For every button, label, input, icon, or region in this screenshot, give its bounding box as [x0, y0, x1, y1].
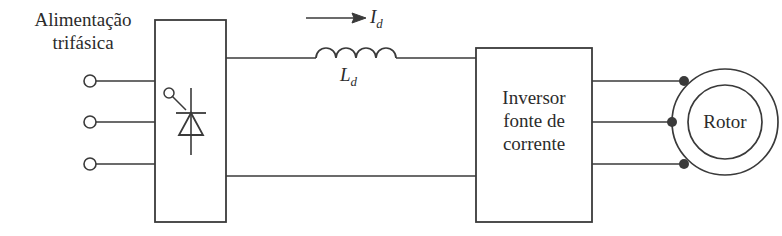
dc-current-label: Id: [370, 6, 383, 32]
supply-terminal-phase-b-icon: [84, 116, 96, 128]
dc-inductance-subscript: d: [351, 74, 357, 89]
dc-link-group: [226, 13, 476, 176]
rotor-terminal-a-dot: [679, 76, 689, 86]
motor-drive-block-diagram: Alimentação trifásica Inversor fonte de …: [0, 0, 782, 236]
supply-terminal-phase-c-icon: [84, 158, 96, 170]
rotor-label: Rotor: [678, 110, 772, 133]
dc-current-arrow-head-icon: [352, 13, 366, 23]
supply-terminals-group: [84, 75, 155, 170]
dc-inductance-label: Ld: [340, 64, 357, 90]
inverter-label: Inversor fonte de corrente: [476, 86, 592, 156]
rectifier-block-group: [155, 20, 226, 222]
supply-label: Alimentação trifásica: [8, 8, 158, 54]
supply-terminal-phase-a-icon: [84, 75, 96, 87]
rotor-terminal-b-dot: [667, 117, 677, 127]
dc-inductance-symbol: L: [340, 64, 351, 85]
rotor-terminal-c-dot: [679, 159, 689, 169]
dc-link-inductor-icon: [316, 48, 396, 58]
thyristor-gate-terminal-icon: [164, 88, 174, 98]
dc-current-subscript: d: [376, 16, 382, 31]
thyristor-gate-lead: [172, 96, 186, 110]
